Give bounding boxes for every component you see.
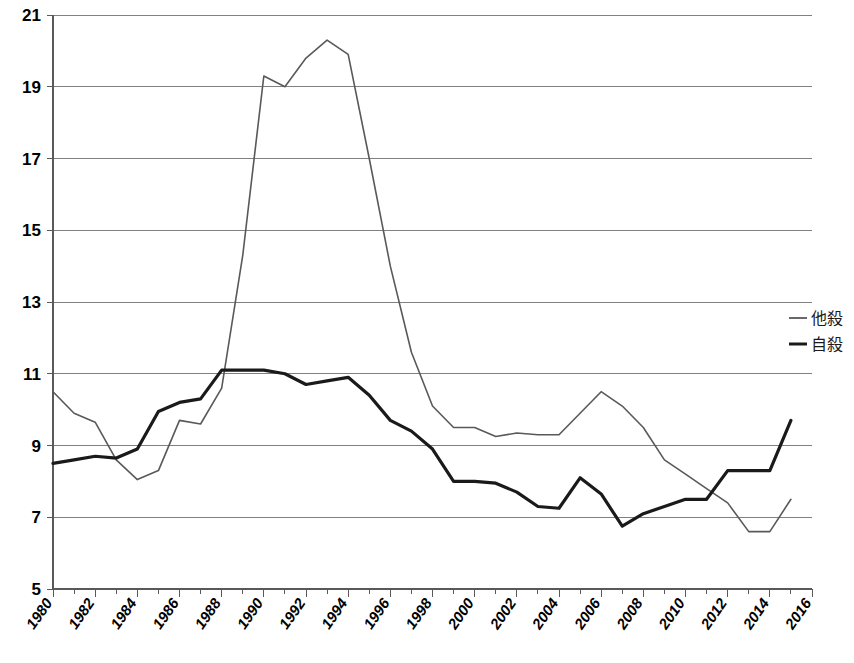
chart-background bbox=[0, 0, 854, 663]
y-axis-tick-label: 9 bbox=[32, 437, 41, 456]
legend-label-他殺: 他殺 bbox=[811, 309, 843, 328]
y-axis-tick-label: 17 bbox=[22, 150, 41, 169]
chart-canvas: 211917151311975 198019821984198619881990… bbox=[0, 0, 854, 663]
legend-label-自殺: 自殺 bbox=[811, 335, 843, 354]
y-axis-tick-label: 11 bbox=[23, 365, 41, 384]
y-axis-tick-label: 15 bbox=[22, 221, 41, 240]
line-chart: 211917151311975 198019821984198619881990… bbox=[0, 0, 854, 663]
y-axis-tick-label: 7 bbox=[32, 508, 41, 527]
y-axis-tick-label: 19 bbox=[22, 78, 41, 97]
y-axis-tick-label: 13 bbox=[22, 293, 41, 312]
y-axis-tick-label: 21 bbox=[22, 6, 41, 25]
